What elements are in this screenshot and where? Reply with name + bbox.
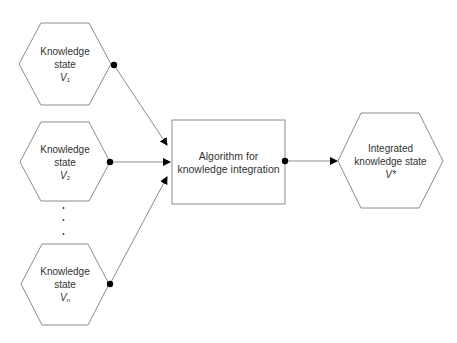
label-v2-line1: Knowledge	[20, 143, 110, 156]
label-v1-var: V1	[20, 71, 110, 87]
label-vn-line1: Knowledge	[20, 265, 110, 278]
label-algorithm-line1: Algorithm for	[172, 150, 285, 163]
connector-vn-to-algorithm	[110, 177, 167, 284]
ellipsis-dot-2	[63, 219, 65, 221]
label-output-var: V*	[338, 168, 443, 181]
label-algorithm-line2: knowledge integration	[172, 163, 285, 176]
label-v2-var: V2	[20, 169, 110, 185]
label-v2: Knowledge state V2	[20, 143, 110, 185]
label-v2-line2: state	[20, 156, 110, 169]
port-dot-v1	[111, 62, 117, 68]
ellipsis-dot-1	[63, 207, 65, 209]
connector-v1-to-algorithm	[114, 65, 167, 145]
label-vn-var: Vn	[20, 291, 110, 307]
label-vn: Knowledge state Vn	[20, 265, 110, 307]
label-v1-line1: Knowledge	[20, 45, 110, 58]
label-output-line1: Integrated	[338, 142, 443, 155]
label-output: Integrated knowledge state V*	[338, 142, 443, 181]
label-v1: Knowledge state V1	[20, 45, 110, 87]
label-algorithm: Algorithm for knowledge integration	[172, 150, 285, 176]
label-output-line2: knowledge state	[338, 155, 443, 168]
label-vn-line2: state	[20, 278, 110, 291]
label-v1-line2: state	[20, 58, 110, 71]
ellipsis-dot-3	[63, 233, 65, 235]
